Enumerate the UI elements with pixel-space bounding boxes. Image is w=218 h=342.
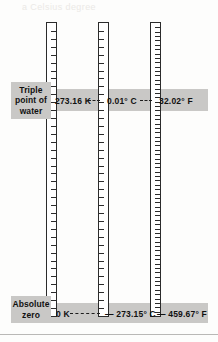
thermometer-column-celsius	[98, 22, 109, 317]
tick-marks-celsius	[99, 23, 104, 316]
caption-triple-line-1: Triple	[19, 85, 42, 96]
caption-triple-line-3: water	[20, 106, 43, 117]
value-celsius-absolute-zero: — 273.15° C	[105, 309, 156, 319]
caption-triple-line-2: point of	[15, 95, 47, 106]
tick-marks-fahrenheit	[155, 23, 160, 316]
temperature-scales-figure: a Celsius degree Triple point of water A…	[0, 0, 218, 342]
thermometer-column-kelvin	[46, 22, 57, 317]
caption-abszero-line-1: Absolute	[12, 299, 49, 310]
thermometer-column-fahrenheit	[150, 22, 161, 317]
value-kelvin-triple-point: 273.16 K	[55, 96, 91, 106]
value-fahrenheit-triple-point: 32.02° F	[159, 96, 193, 106]
value-fahrenheit-absolute-zero: — 459.67° F	[157, 309, 207, 319]
connector-dash-celsius-to-fahrenheit	[140, 100, 152, 101]
tick-marks-kelvin	[51, 23, 56, 316]
value-kelvin-absolute-zero: 0 K	[56, 309, 70, 319]
connector-dash-absolute-zero	[70, 313, 100, 314]
caption-triple-point-of-water: Triple point of water	[11, 82, 51, 119]
caption-abszero-line-2: zero	[22, 310, 40, 321]
caption-absolute-zero: Absolute zero	[11, 296, 51, 323]
value-celsius-triple-point: 0.01° C	[107, 96, 137, 106]
figure-bottom-rule	[0, 334, 218, 335]
scan-ghost-text: a Celsius degree	[22, 2, 202, 20]
